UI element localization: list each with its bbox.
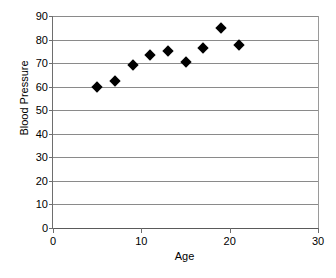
data-point-marker — [233, 40, 244, 51]
y-tick-label: 20 — [36, 175, 48, 187]
x-tick-label: 30 — [312, 235, 324, 247]
y-gridline — [53, 204, 318, 205]
y-gridline — [53, 40, 318, 41]
y-gridline — [53, 181, 318, 182]
data-point-marker — [109, 75, 120, 86]
plot-area: 01020304050607080900102030 — [52, 16, 319, 228]
y-tick-label: 30 — [36, 151, 48, 163]
data-point-marker — [91, 81, 102, 92]
x-tick-label: 20 — [224, 235, 236, 247]
x-tick-mark — [141, 228, 142, 233]
y-tick-label: 80 — [36, 34, 48, 46]
x-tick-label: 10 — [135, 235, 147, 247]
y-tick-label: 40 — [36, 128, 48, 140]
data-point-marker — [127, 60, 138, 71]
data-point-marker — [144, 49, 155, 60]
data-point-marker — [197, 42, 208, 53]
scatter-chart: Blood Pressure 0102030405060708090010203… — [0, 0, 336, 278]
y-tick-label: 60 — [36, 81, 48, 93]
y-tick-mark — [49, 134, 53, 135]
y-tick-label: 10 — [36, 198, 48, 210]
y-tick-mark — [49, 110, 53, 111]
x-axis-title: Age — [52, 250, 317, 262]
y-tick-label: 90 — [36, 10, 48, 22]
x-tick-mark — [53, 228, 54, 233]
y-gridline — [53, 134, 318, 135]
y-tick-mark — [49, 16, 53, 17]
y-tick-label: 70 — [36, 57, 48, 69]
y-tick-mark — [49, 40, 53, 41]
y-tick-mark — [49, 181, 53, 182]
x-tick-mark — [230, 228, 231, 233]
y-tick-mark — [49, 63, 53, 64]
x-tick-mark — [318, 228, 319, 233]
data-point-marker — [215, 22, 226, 33]
y-axis-title: Blood Pressure — [18, 38, 30, 158]
data-point-marker — [162, 46, 173, 57]
y-tick-mark — [49, 204, 53, 205]
y-gridline — [53, 157, 318, 158]
y-gridline — [53, 228, 318, 229]
y-tick-mark — [49, 87, 53, 88]
data-point-marker — [180, 56, 191, 67]
y-tick-label: 50 — [36, 104, 48, 116]
y-tick-mark — [49, 157, 53, 158]
x-tick-label: 0 — [50, 235, 56, 247]
y-tick-label: 0 — [42, 222, 48, 234]
y-gridline — [53, 110, 318, 111]
y-gridline — [53, 16, 318, 17]
